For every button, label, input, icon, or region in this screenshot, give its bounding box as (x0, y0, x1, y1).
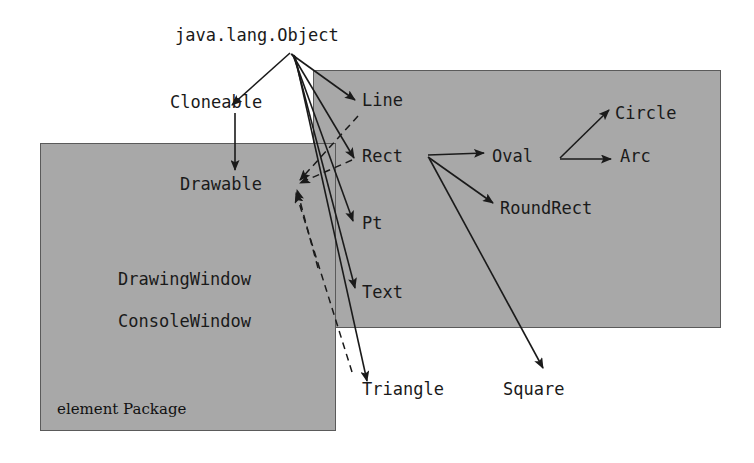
class-diagram-canvas: java.lang.Object Cloneable Drawable Draw… (0, 0, 754, 463)
node-drawable: Drawable (180, 176, 262, 193)
node-arc: Arc (620, 148, 651, 165)
node-pt: Pt (362, 215, 382, 232)
node-circle: Circle (615, 105, 676, 122)
node-triangle: Triangle (362, 381, 444, 398)
node-consolewindow: ConsoleWindow (118, 313, 251, 330)
package-caption-element: element Package (57, 402, 186, 417)
node-drawingwindow: DrawingWindow (118, 271, 251, 288)
node-square: Square (503, 381, 564, 398)
node-java-lang-object: java.lang.Object (175, 27, 339, 44)
node-rect: Rect (362, 148, 403, 165)
node-oval: Oval (492, 148, 533, 165)
node-line: Line (362, 92, 403, 109)
node-roundrect: RoundRect (500, 200, 592, 217)
node-cloneable: Cloneable (170, 94, 262, 111)
node-text: Text (362, 284, 403, 301)
